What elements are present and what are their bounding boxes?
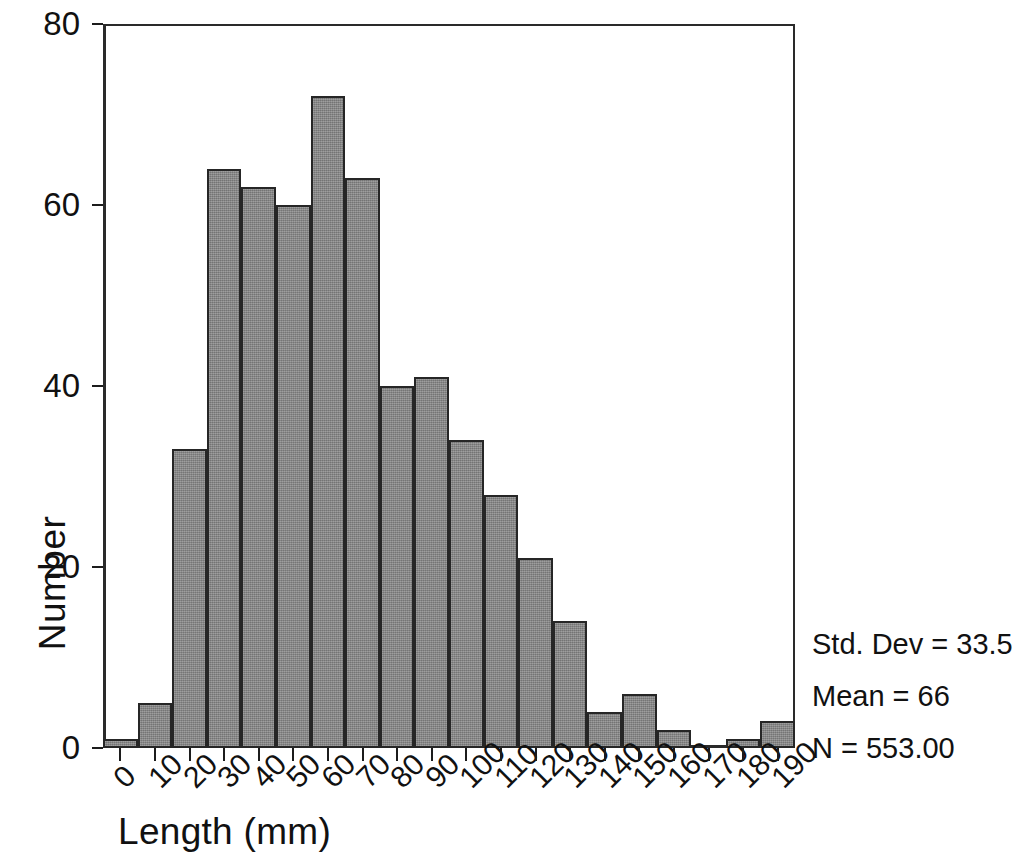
mean-label: Mean = 66: [812, 670, 1012, 722]
std-dev-label: Std. Dev = 33.53: [812, 618, 1012, 670]
y-tick-mark: [92, 747, 103, 749]
y-tick-label: 0: [2, 731, 80, 764]
statistics-annotation: Std. Dev = 33.53 Mean = 66 N = 553.00: [812, 618, 1012, 774]
histogram-bar: [241, 187, 276, 748]
x-tick-label: 0: [108, 760, 141, 793]
y-tick-mark: [92, 385, 103, 387]
y-tick-mark: [92, 204, 103, 206]
n-label: N = 553.00: [812, 722, 1012, 774]
histogram-bar: [276, 205, 311, 748]
y-tick-mark: [92, 566, 103, 568]
histogram-bars: [103, 24, 795, 748]
histogram-bar: [311, 96, 346, 748]
y-tick-label: 80: [2, 7, 80, 40]
histogram-bar: [518, 558, 553, 748]
histogram-figure: Number 020406080 01020304050607080901001…: [0, 0, 1012, 857]
histogram-bar: [380, 386, 415, 748]
histogram-bar: [553, 621, 588, 748]
histogram-bar: [207, 169, 242, 748]
y-tick-label: 20: [2, 550, 80, 583]
histogram-bar: [449, 440, 484, 748]
y-tick-label: 40: [2, 369, 80, 402]
histogram-bar: [172, 449, 207, 748]
histogram-bar: [138, 703, 173, 748]
x-axis-title: Length (mm): [118, 812, 331, 852]
y-tick-mark: [92, 23, 103, 25]
y-tick-label: 60: [2, 188, 80, 221]
histogram-bar: [345, 178, 380, 748]
histogram-bar: [103, 739, 138, 748]
histogram-bar: [484, 495, 519, 748]
histogram-bar: [414, 377, 449, 748]
